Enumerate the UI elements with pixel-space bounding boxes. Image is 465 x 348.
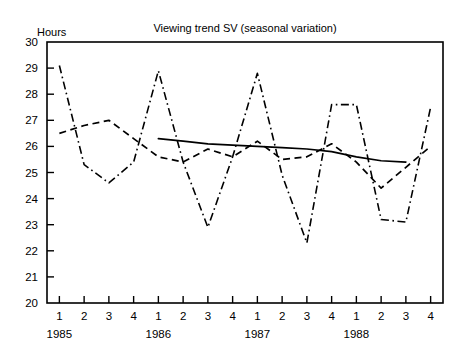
y-axis-ticks xyxy=(47,68,54,277)
x-tick-label: 1 xyxy=(353,310,359,322)
x-tick-label: 1 xyxy=(254,310,260,322)
y-tick-label: 24 xyxy=(25,193,38,205)
y-tick-label: 20 xyxy=(25,297,38,309)
x-axis-ticks xyxy=(59,296,430,303)
x-axis-year-labels: 1985198619871988 xyxy=(47,328,370,340)
x-tick-label: 3 xyxy=(205,310,211,322)
y-tick-label: 26 xyxy=(25,140,38,152)
x-axis-tick-labels: 1234123412341234 xyxy=(56,310,434,322)
series-line-actual xyxy=(59,65,430,242)
y-tick-label: 21 xyxy=(25,271,38,283)
chart-title: Viewing trend SV (seasonal variation) xyxy=(153,22,336,34)
x-tick-label: 3 xyxy=(106,310,112,322)
x-year-label: 1987 xyxy=(245,328,271,340)
y-tick-label: 23 xyxy=(25,219,38,231)
x-tick-label: 2 xyxy=(378,310,384,322)
x-tick-label: 4 xyxy=(328,310,335,322)
x-tick-label: 1 xyxy=(56,310,62,322)
y-tick-label: 22 xyxy=(25,245,38,257)
x-year-label: 1988 xyxy=(344,328,370,340)
y-axis-tick-labels: 3029282726252423222120 xyxy=(25,36,38,309)
y-tick-label: 27 xyxy=(25,114,38,126)
x-year-label: 1986 xyxy=(146,328,172,340)
x-tick-label: 4 xyxy=(229,310,236,322)
x-tick-label: 3 xyxy=(304,310,310,322)
x-tick-label: 2 xyxy=(279,310,285,322)
x-tick-label: 2 xyxy=(180,310,186,322)
y-tick-label: 30 xyxy=(25,36,38,48)
x-tick-label: 3 xyxy=(403,310,409,322)
y-axis-label: Hours xyxy=(37,26,67,38)
x-tick-label: 4 xyxy=(130,310,137,322)
line-chart: Hours Viewing trend SV (seasonal variati… xyxy=(0,0,465,348)
y-tick-label: 28 xyxy=(25,88,38,100)
series-line-seasonally-adjusted xyxy=(59,120,430,188)
y-tick-label: 29 xyxy=(25,62,38,74)
x-tick-label: 1 xyxy=(155,310,161,322)
plot-frame xyxy=(47,42,443,303)
chart-figure: Hours Viewing trend SV (seasonal variati… xyxy=(0,0,465,348)
x-tick-label: 4 xyxy=(427,310,434,322)
x-year-label: 1985 xyxy=(47,328,73,340)
y-tick-label: 25 xyxy=(25,167,38,179)
x-tick-label: 2 xyxy=(81,310,87,322)
series-line-trend xyxy=(158,139,406,162)
